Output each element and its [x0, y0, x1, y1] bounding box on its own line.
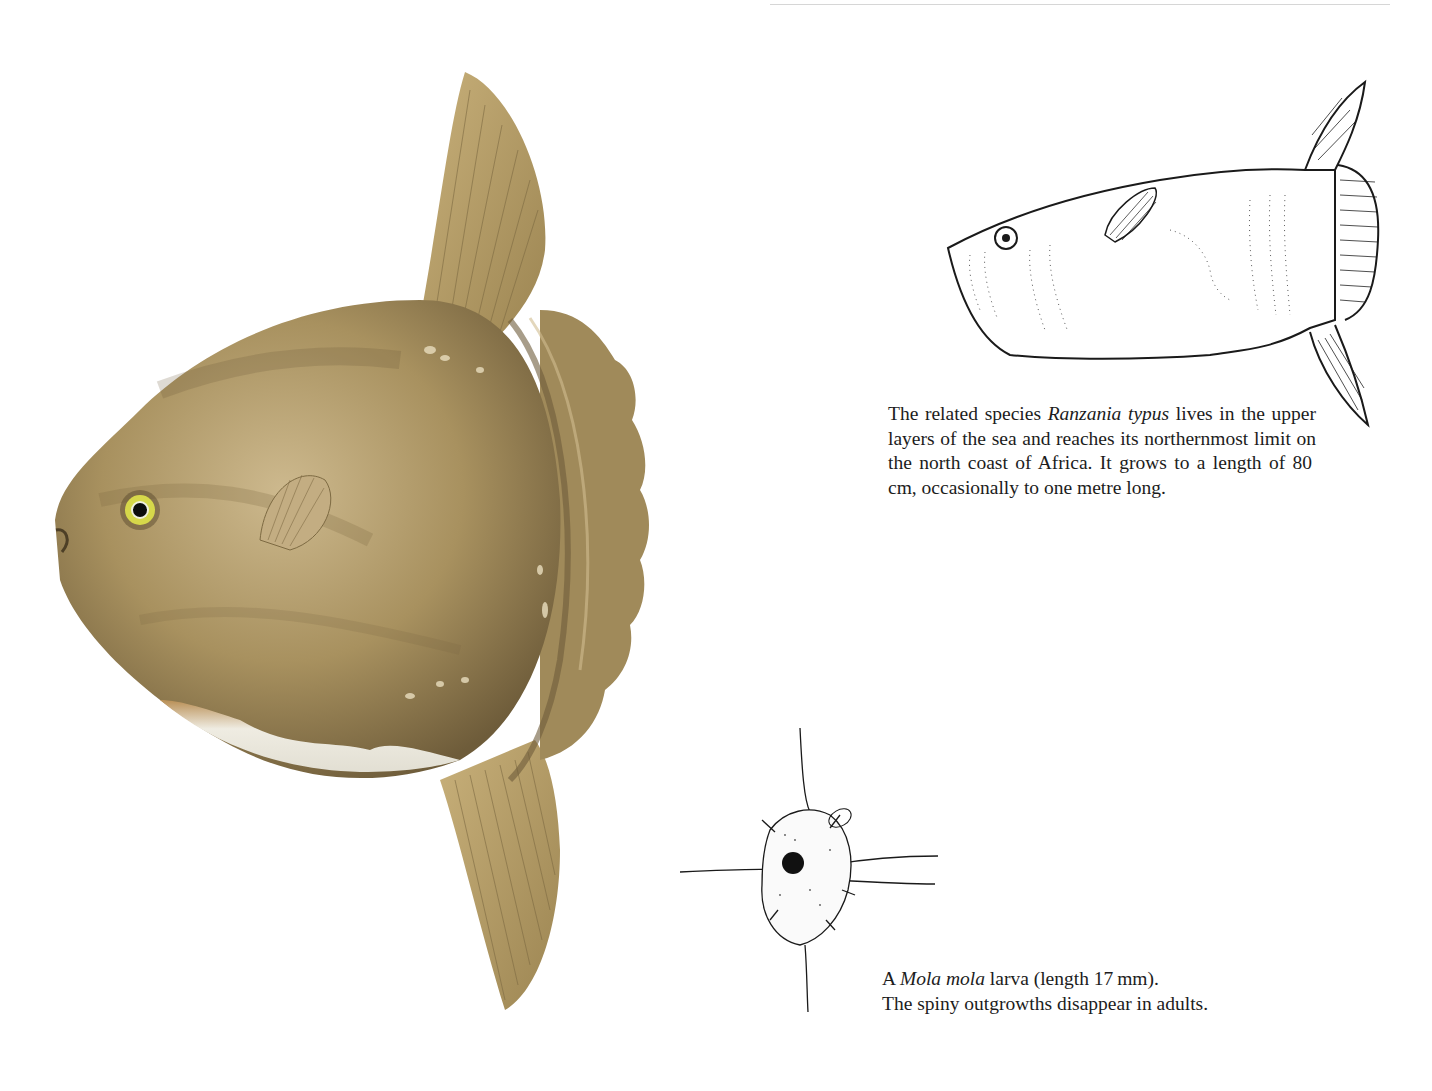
ranzania-illustration — [940, 70, 1380, 430]
larva-top-spine — [800, 728, 810, 812]
eye — [120, 490, 160, 530]
caption-text: A — [882, 968, 900, 989]
ranzania-anal-fin — [1310, 325, 1368, 425]
caption-text-line2: The spiny outgrowths disappear in adults… — [882, 992, 1272, 1017]
ranzania-pectoral-fin — [1105, 188, 1156, 242]
sunfish-illustration — [40, 60, 680, 1020]
species-name: Mola mola — [900, 968, 985, 989]
ranzania-clavus — [1338, 165, 1378, 320]
cropped-heading-text — [0, 0, 720, 6]
larva-bottom-spine — [805, 945, 808, 1012]
larva-body — [762, 810, 851, 945]
caption-text: The related species — [888, 403, 1048, 424]
caption-text: larva (length 17 mm). — [985, 968, 1159, 989]
species-name: Ranzania typus — [1048, 403, 1170, 424]
ranzania-caption: The related species Ranzania typus lives… — [888, 402, 1316, 500]
ranzania-body — [948, 169, 1335, 358]
larva-caption: A Mola mola larva (length 17 mm). The sp… — [882, 967, 1272, 1016]
larva-eye — [782, 852, 804, 874]
top-rule-divider — [770, 4, 1390, 5]
